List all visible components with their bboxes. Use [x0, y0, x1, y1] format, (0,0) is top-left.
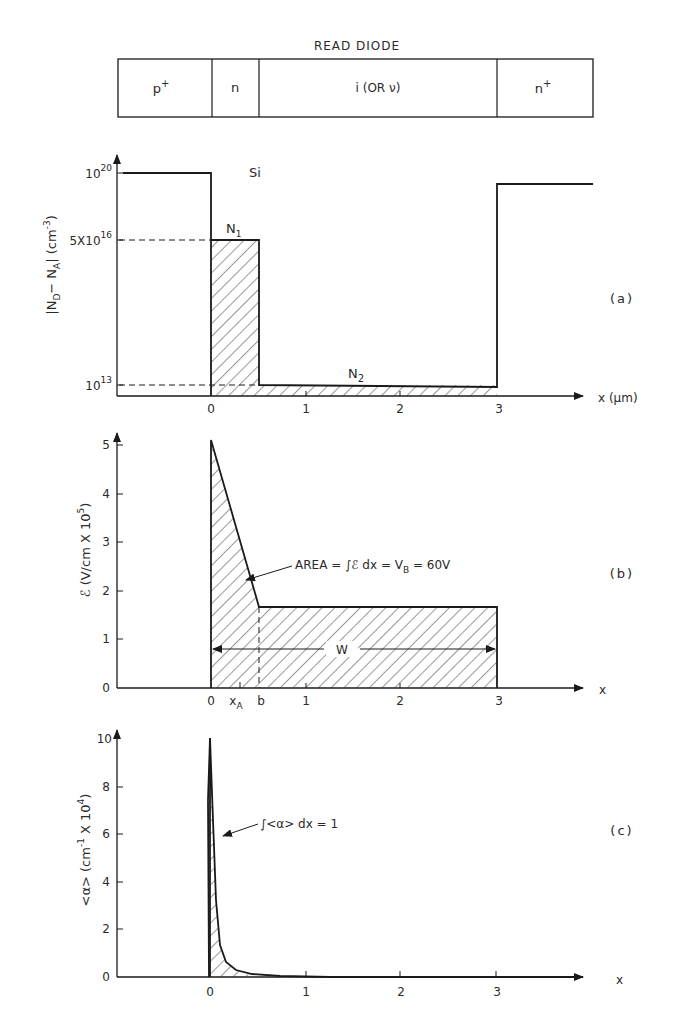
xtick-b-2: 2 — [396, 694, 404, 708]
depletion-width-label: W — [336, 643, 348, 657]
ytick-c-0: 0 — [102, 970, 110, 984]
xtick-b-3: 3 — [495, 694, 503, 708]
ytick-b-4: 4 — [102, 487, 110, 501]
panel-tag-c: (c) — [610, 823, 633, 838]
xtick-0: 0 — [207, 402, 215, 416]
ytick-c-10: 10 — [97, 732, 112, 746]
y-axis-label-a: |ND− NA| (cm-3) — [42, 215, 62, 314]
doping-curve — [211, 184, 593, 387]
n1-label: N1 — [226, 221, 241, 239]
panel-b-electric-field: W AREA = ∫ℰ dx = VB = 60V (b) 0 1 2 3 4 … — [76, 433, 634, 711]
ytick-b-2: 2 — [102, 584, 110, 598]
x-axis-label-b: x — [599, 683, 606, 697]
y-axis-label-c: <α> (cm-1 X 104) — [76, 794, 93, 907]
xtick-c-1: 1 — [302, 985, 310, 999]
material-label: Si — [249, 165, 261, 180]
xtick-b-1: 1 — [302, 694, 310, 708]
ytick-b-1: 1 — [102, 632, 110, 646]
integral-annotation: ∫<α> dx = 1 — [260, 817, 338, 831]
ytick-c-2: 2 — [102, 922, 110, 936]
ytick-5e16: 5X1016 — [69, 230, 112, 248]
xtick-c-2: 2 — [397, 985, 405, 999]
ytick-c-6: 6 — [102, 827, 110, 841]
panel-tag-a: (a) — [610, 291, 634, 306]
region-n-plus: n+ — [535, 78, 552, 96]
xtick-2: 2 — [396, 402, 404, 416]
read-diode-figure: READ DIODE p+ n i (OR ν) n+ 1020 5X1016 … — [0, 0, 683, 1028]
panel-a-doping-profile: 1020 5X1016 1013 0 1 2 3 x (μm) Si N1 N2… — [42, 155, 638, 416]
y-axis-label-b: ℰ (V/cm X 105) — [76, 503, 93, 598]
xtick-c-0: 0 — [206, 985, 214, 999]
xtick-c-3: 3 — [493, 985, 501, 999]
panel-c-ionization: ∫<α> dx = 1 (c) 0 2 4 6 8 10 0 1 2 3 x <… — [76, 730, 634, 999]
ytick-1e20: 1020 — [85, 163, 112, 181]
xtick-b-xa: xA — [229, 694, 243, 711]
region-n: n — [231, 80, 239, 95]
ytick-b-5: 5 — [102, 438, 110, 452]
xtick-3: 3 — [495, 402, 503, 416]
xtick-b-b: b — [257, 694, 265, 708]
region-p-plus: p+ — [153, 78, 170, 96]
x-axis-label-c: x — [616, 973, 623, 987]
alpha-area-hatch — [210, 738, 260, 977]
panel-tag-b: (b) — [610, 566, 634, 581]
n2-label: N2 — [348, 366, 364, 384]
xtick-b-0: 0 — [207, 694, 215, 708]
diode-structure: READ DIODE p+ n i (OR ν) n+ — [118, 39, 593, 117]
area-annotation: AREA = ∫ℰ dx = VB = 60V — [295, 558, 451, 575]
hatch-n1 — [211, 240, 259, 396]
region-intrinsic: i (OR ν) — [356, 81, 401, 95]
xtick-1: 1 — [302, 402, 310, 416]
ytick-1e13: 1013 — [85, 375, 112, 393]
ytick-c-8: 8 — [102, 780, 110, 794]
ytick-b-3: 3 — [102, 535, 110, 549]
diode-title: READ DIODE — [314, 39, 400, 53]
ytick-b-0: 0 — [102, 681, 110, 695]
x-axis-label-a: x (μm) — [598, 391, 638, 405]
alpha-curve — [210, 738, 583, 977]
ytick-c-4: 4 — [102, 875, 110, 889]
